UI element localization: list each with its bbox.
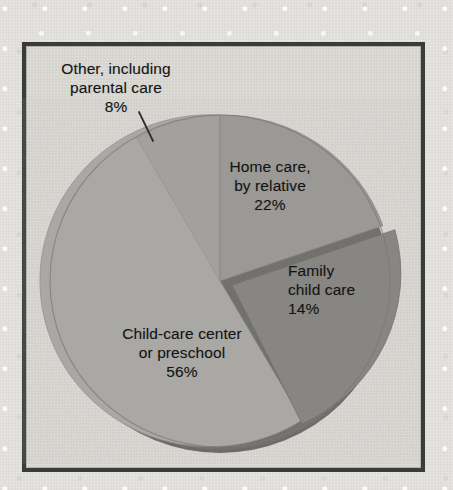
- slice-label-home-care-line1: Home care,: [200, 158, 340, 177]
- slice-value-child-care-center: 56%: [92, 363, 272, 382]
- slice-label-other-parental-care: Other, including parental care 8%: [30, 60, 202, 117]
- slice-label-center-line2: or preschool: [92, 344, 272, 363]
- slice-value-family-child-care: 14%: [288, 300, 404, 319]
- slice-label-child-care-center: Child-care center or preschool 56%: [92, 325, 272, 382]
- slice-label-family-child-care: Family child care 14%: [288, 262, 404, 319]
- slice-value-other-parental-care: 8%: [30, 98, 202, 117]
- slice-label-home-care-by-relative: Home care, by relative 22%: [200, 158, 340, 215]
- slice-label-family-line1: Family: [288, 262, 404, 281]
- slice-label-center-line1: Child-care center: [92, 325, 272, 344]
- chart-page: Other, including parental care 8% Home c…: [0, 0, 453, 490]
- slice-label-other-line1: Other, including: [30, 60, 202, 79]
- slice-label-family-line2: child care: [288, 281, 404, 300]
- slice-label-home-care-line2: by relative: [200, 177, 340, 196]
- slice-label-other-line2: parental care: [30, 79, 202, 98]
- slice-value-home-care-by-relative: 22%: [200, 196, 340, 215]
